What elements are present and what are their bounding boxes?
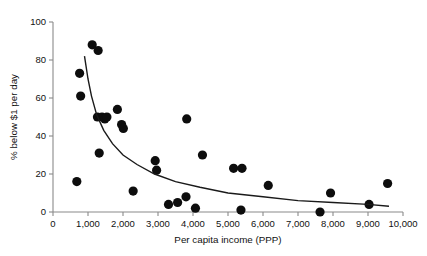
scatter-points-layer [72,40,392,216]
data-point [264,181,273,190]
x-axis-tick-labels: 01,0002,0003,0004,0005,0006,0007,0008,00… [50,218,417,229]
data-point [315,207,324,216]
data-point [181,192,190,201]
y-tick-label: 40 [35,130,46,141]
y-axis: 020406080100 [30,16,53,217]
x-tick-label: 10,000 [388,218,417,229]
x-tick-label: 8,000 [321,218,345,229]
y-tick-label: 80 [35,54,46,65]
data-point [75,69,84,78]
x-tick-label: 2,000 [111,218,135,229]
x-tick-label: 0 [50,218,55,229]
trend-line [85,56,390,206]
y-tick-label: 0 [41,206,46,217]
data-point [113,105,122,114]
x-axis: 01,0002,0003,0004,0005,0006,0007,0008,00… [50,212,417,229]
y-tick-label: 20 [35,168,46,179]
y-axis-title: % below $1 per day [8,74,19,160]
x-tick-label: 5,000 [216,218,240,229]
chart-figure: 020406080100 01,0002,0003,0004,0005,0006… [0,0,427,256]
data-point [182,114,191,123]
data-point [229,164,238,173]
data-point [76,92,85,101]
data-point [164,200,173,209]
x-tick-label: 1,000 [76,218,100,229]
y-tick-label: 60 [35,92,46,103]
x-tick-label: 7,000 [286,218,310,229]
y-axis-ticks [49,22,53,212]
data-point [383,179,392,188]
x-tick-label: 4,000 [181,218,205,229]
data-point [191,204,200,213]
data-point [102,112,111,121]
data-point [173,198,182,207]
scatter-plot: 020406080100 01,0002,0003,0004,0005,0006… [0,0,427,256]
x-axis-title: Per capita income (PPP) [174,234,281,245]
x-axis-ticks [53,212,403,216]
x-tick-label: 6,000 [251,218,275,229]
data-point [236,206,245,215]
data-point [95,149,104,158]
data-point [72,177,81,186]
x-tick-label: 3,000 [146,218,170,229]
data-point [151,156,160,165]
y-tick-label: 100 [30,16,46,27]
y-axis-tick-labels: 020406080100 [30,16,46,217]
x-tick-label: 9,000 [356,218,380,229]
data-point [326,188,335,197]
data-point [237,164,246,173]
data-point [129,187,138,196]
data-point [198,150,207,159]
data-point [119,124,128,133]
data-point [94,46,103,55]
